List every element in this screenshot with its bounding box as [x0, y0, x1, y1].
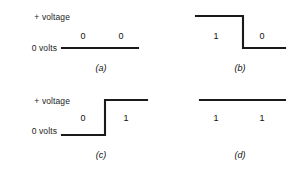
panel-a-caption: (a) — [88, 63, 114, 74]
panel-b: 1 0 (b) — [148, 0, 296, 86]
panel-a-waveform-trace — [0, 0, 148, 86]
voltage-waveform-figure: + voltage 0 volts 0 0 (a) 1 0 (b) + volt… — [0, 0, 296, 172]
panel-c-caption: (c) — [88, 150, 114, 161]
panel-a: + voltage 0 volts 0 0 (a) — [0, 0, 148, 86]
panel-d-waveform-trace — [148, 86, 296, 172]
panel-b-caption: (b) — [227, 63, 253, 74]
panel-b-waveform-trace — [148, 0, 296, 86]
panel-d: 1 1 (d) — [148, 86, 296, 172]
panel-c: + voltage 0 volts 0 1 (c) — [0, 86, 148, 172]
panel-c-waveform-trace — [0, 86, 148, 172]
panel-d-caption: (d) — [227, 150, 253, 161]
